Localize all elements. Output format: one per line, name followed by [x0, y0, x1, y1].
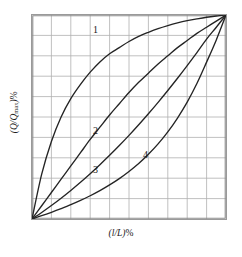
y-axis-title-variable: Q/Q — [9, 114, 19, 130]
curve-plot — [32, 15, 226, 219]
curve-annotation-3: 3 — [93, 165, 98, 175]
y-axis-title-close: ) — [9, 99, 19, 102]
y-axis-title-open: ( — [9, 130, 19, 133]
chart-figure: 1 2 3 4 (l/L)% (Q/Qmax)% — [0, 0, 242, 257]
curve-annotation-4: 4 — [143, 150, 148, 160]
curve-annotation-2: 2 — [93, 126, 98, 136]
curve-series-1 — [32, 15, 226, 219]
curve-annotation-1: 1 — [93, 25, 98, 35]
x-axis-title-variable: l/L — [112, 228, 123, 238]
y-axis-title-subscript: max — [12, 102, 19, 113]
y-axis-title: (Q/Qmax)% — [9, 52, 20, 172]
x-axis-title: (l/L)% — [0, 228, 242, 238]
plot-area — [31, 14, 227, 220]
x-axis-title-unit: % — [125, 228, 133, 238]
y-axis-title-unit: % — [9, 91, 19, 99]
